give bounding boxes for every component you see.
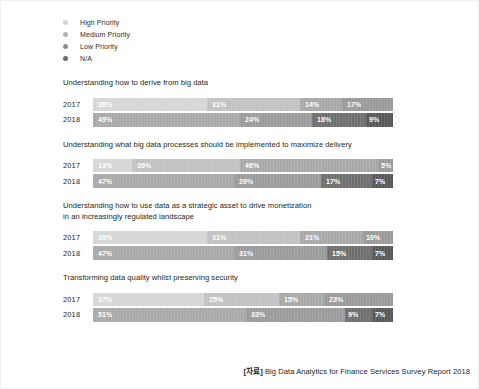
chart-row: 201737%25%15%23%: [63, 293, 393, 306]
chart-rows: 201738%31%14%17%201849%24%18%9%: [63, 98, 393, 127]
row-year-label: 2018: [63, 113, 93, 127]
bar-segment-label: 47%: [93, 250, 112, 257]
stacked-bar: 38%31%21%10%: [93, 231, 393, 244]
stacked-bar: 38%31%14%17%: [93, 98, 393, 111]
bar-segment: 46%: [240, 159, 378, 172]
bar-segment-label: 7%: [372, 250, 385, 257]
row-year-label: 2017: [63, 159, 93, 172]
bar-segment-label: 7%: [372, 311, 385, 318]
bar-segment: 10%: [363, 231, 393, 244]
bar-segment-label: 31%: [207, 234, 226, 241]
chart-block: Transforming data quality whilst preserv…: [63, 273, 393, 322]
row-year-label: 2018: [63, 246, 93, 260]
bar-segment: 24%: [240, 113, 312, 127]
bar-segment-label: 15%: [279, 296, 298, 303]
bar-segment-label: 31%: [234, 250, 253, 257]
bar-segment: 49%: [93, 113, 240, 127]
bar-segment-label: 46%: [240, 162, 259, 169]
bar-segment-label: 13%: [93, 162, 112, 169]
bar-segment: 13%: [93, 159, 132, 172]
bar-segment: 36%: [132, 159, 240, 172]
chart-row: 201713%36%46%5%: [63, 159, 393, 172]
legend-item: Medium Priority: [63, 29, 393, 40]
row-year-label: 2017: [63, 98, 93, 111]
bar-segment: 38%: [93, 231, 207, 244]
chart-rows: 201713%36%46%5%201847%29%17%7%: [63, 159, 393, 188]
bar-segment: 15%: [279, 293, 324, 306]
legend-item-label: N/A: [80, 54, 92, 63]
bar-segment: 17%: [321, 174, 372, 188]
bar-segment: 37%: [93, 293, 204, 306]
footer-source-text: Big Data Analytics for Finance Services …: [265, 367, 470, 376]
footer-source-tag: [자료]: [243, 367, 262, 376]
legend-item: N/A: [63, 53, 393, 64]
bar-segment-label: 14%: [300, 101, 319, 108]
chart-row: 201847%29%17%7%: [63, 174, 393, 188]
bar-segment: 31%: [234, 246, 327, 260]
bar-segment-label: 49%: [93, 116, 112, 123]
bar-segment-label: 29%: [234, 178, 253, 185]
stacked-bar: 49%24%18%9%: [93, 113, 393, 127]
bar-segment-label: 38%: [93, 234, 112, 241]
stacked-bar: 13%36%46%5%: [93, 159, 393, 172]
report-page: High PriorityMedium PriorityLow Priority…: [0, 0, 479, 389]
chart-row: 201849%24%18%9%: [63, 113, 393, 127]
bar-segment-label: 9%: [366, 116, 379, 123]
chart-title: Transforming data quality whilst preserv…: [63, 273, 393, 284]
bar-segment-label: 15%: [327, 250, 346, 257]
legend-item-label: Low Priority: [80, 42, 118, 51]
bar-segment-label: 25%: [204, 296, 223, 303]
bar-segment-label: 18%: [312, 116, 331, 123]
chart-row: 201851%33%9%7%: [63, 308, 393, 322]
legend-dot-icon: [63, 44, 68, 49]
bar-segment: 17%: [342, 98, 393, 111]
bar-segment-label: 31%: [207, 101, 226, 108]
bar-segment: 5%: [378, 159, 393, 172]
report-content: High PriorityMedium PriorityLow Priority…: [63, 17, 393, 335]
bar-segment-label: 21%: [300, 234, 319, 241]
legend-item-label: High Priority: [80, 18, 119, 27]
bar-segment: 33%: [246, 308, 345, 322]
bar-segment: 23%: [324, 293, 393, 306]
bar-segment: 47%: [93, 246, 234, 260]
legend-dot-icon: [63, 20, 68, 25]
bar-segment-label: 7%: [372, 178, 385, 185]
bar-segment: 38%: [93, 98, 207, 111]
footer-source: [자료] Big Data Analytics for Finance Serv…: [243, 365, 470, 376]
chart-title: Understanding what big data processes sh…: [63, 140, 393, 151]
bar-segment: 7%: [372, 174, 393, 188]
chart-block: Understanding how to use data as a strat…: [63, 201, 393, 260]
bar-segment: 15%: [327, 246, 372, 260]
bar-segment: 21%: [300, 231, 363, 244]
bar-segment: 18%: [312, 113, 366, 127]
bar-segment-label: 17%: [321, 178, 340, 185]
chart-rows: 201738%31%21%10%201847%31%15%7%: [63, 231, 393, 260]
bar-segment: 47%: [93, 174, 234, 188]
row-year-label: 2017: [63, 293, 93, 306]
bar-segment: 9%: [345, 308, 372, 322]
legend-item-label: Medium Priority: [80, 30, 130, 39]
bar-segment-label: 36%: [132, 162, 151, 169]
bar-segment: 31%: [207, 231, 300, 244]
legend: High PriorityMedium PriorityLow Priority…: [63, 17, 393, 64]
bar-segment-label: 17%: [342, 101, 361, 108]
stacked-bar: 51%33%9%7%: [93, 308, 393, 322]
bar-segment-label: 47%: [93, 178, 112, 185]
stacked-bar: 47%29%17%7%: [93, 174, 393, 188]
chart-block: Understanding what big data processes sh…: [63, 140, 393, 189]
bar-segment-label: 51%: [93, 311, 112, 318]
legend-dot-icon: [63, 56, 68, 61]
bar-segment-label: 33%: [246, 311, 265, 318]
bar-segment-label: 9%: [345, 311, 358, 318]
legend-dot-icon: [63, 32, 68, 37]
chart-row: 201738%31%14%17%: [63, 98, 393, 111]
chart-row: 201738%31%21%10%: [63, 231, 393, 244]
bar-segment: 9%: [366, 113, 393, 127]
bar-segment-label: 5%: [378, 162, 391, 169]
bar-segment: 29%: [234, 174, 321, 188]
bar-segment-label: 38%: [93, 101, 112, 108]
legend-item: Low Priority: [63, 41, 393, 52]
row-year-label: 2018: [63, 174, 93, 188]
row-year-label: 2017: [63, 231, 93, 244]
chart-title: Understanding how to derive from big dat…: [63, 78, 393, 89]
